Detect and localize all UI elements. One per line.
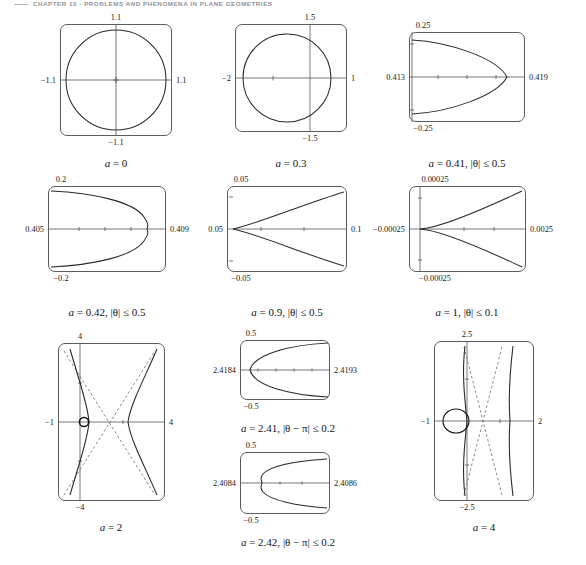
caption-var: a — [435, 306, 441, 318]
caption-var: a — [241, 422, 247, 434]
curve-wedge-lower — [233, 229, 344, 266]
axis-label-bottom: −4 — [76, 503, 85, 512]
panel-caption: a = 0.3 — [276, 157, 307, 169]
axis-label-bottom: −1.1 — [108, 138, 123, 147]
axis-label-right: 1.1 — [176, 76, 186, 85]
caption-var: a — [241, 536, 247, 548]
plot-canvas — [48, 186, 166, 272]
axis-label-left: 2.4084 — [213, 479, 236, 488]
axis-label-top: 0.2 — [56, 175, 66, 184]
axis-label-bottom: −0.00025 — [419, 274, 451, 283]
panel-caption: a = 2.42, |θ − π| ≤ 0.2 — [241, 536, 335, 548]
axis-label-top: 1.5 — [305, 13, 315, 22]
axis-label-right: 2.4086 — [334, 479, 357, 488]
axis-label-top: 1.1 — [111, 13, 121, 22]
caption-var: a — [429, 157, 435, 169]
panel-a09: 0.05 −0.05 0.05 0.1 a = 0.9, |θ| ≤ 0.5 — [227, 186, 347, 272]
axis-label-top: 0.00025 — [421, 175, 448, 184]
caption-eq: = 2.41, — [249, 422, 280, 434]
caption-cond: |θ| ≤ 0.5 — [471, 157, 506, 169]
axis-label-right: 0.1 — [351, 225, 361, 234]
caption-eq: = 0.9, — [260, 306, 285, 318]
axis-label-left: 0.405 — [25, 225, 44, 234]
axis-label-right: 0.0025 — [530, 225, 553, 234]
axis-label-right: 1 — [351, 74, 355, 83]
axis-label-top: 0.5 — [246, 329, 256, 338]
caption-var: a — [105, 157, 111, 169]
plot-area-a03: 1.5 −1.5 −2 1 — [235, 24, 347, 132]
plot-area-a041: 0.25 −0.25 0.413 0.419 — [409, 32, 525, 122]
plot-canvas — [434, 341, 534, 501]
asymptote-lines — [64, 351, 155, 495]
axis-label-right: 2.4193 — [334, 366, 357, 375]
axis-label-top: 0.05 — [234, 175, 249, 184]
panel-caption: a = 0.41, |θ| ≤ 0.5 — [429, 157, 506, 169]
axis-label-right: 4 — [169, 418, 173, 427]
curve-parabola-right-kink — [261, 459, 327, 508]
panel-a03: 1.5 −1.5 −2 1 a = 0.3 — [235, 24, 347, 132]
plot-canvas — [409, 32, 525, 122]
axis-label-top: 0.5 — [246, 441, 256, 450]
caption-eq: = 2.42, — [249, 536, 280, 548]
caption-eq: = 0 — [113, 157, 127, 169]
caption-var: a — [100, 521, 106, 533]
axis-label-left: 2.4184 — [213, 366, 236, 375]
caption-cond: |θ − π| ≤ 0.2 — [283, 422, 335, 434]
axis-label-bottom: −0.2 — [53, 274, 68, 283]
axis-label-bottom: −0.5 — [243, 402, 258, 411]
panel-a042: 0.2 −0.2 0.405 0.409 a = 0.42, |θ| ≤ 0.5 — [48, 186, 166, 272]
plot-area-a09: 0.05 −0.05 0.05 0.1 — [227, 186, 347, 272]
caption-var: a — [473, 521, 479, 533]
caption-var: a — [251, 306, 257, 318]
panel-caption: a = 0 — [105, 157, 128, 169]
plot-area-a042: 0.2 −0.2 0.405 0.409 — [48, 186, 166, 272]
plot-area-a1: 0.00025 −0.00025 −0.00025 0.0025 — [409, 186, 526, 272]
panel-caption: a = 4 — [473, 521, 496, 533]
axis-label-bottom: −1.5 — [302, 134, 317, 143]
panel-a4: 2.5 −2.5 −1 2 a = 4 — [434, 341, 534, 501]
caption-eq: = 0.42, — [77, 306, 108, 318]
panel-caption: a = 2 — [100, 521, 123, 533]
plot-area-a242: 0.5 −0.5 2.4084 2.4086 — [240, 452, 330, 514]
caption-cond: |θ − π| ≤ 0.2 — [283, 536, 335, 548]
caption-eq: = 0.3 — [284, 157, 307, 169]
panel-caption: a = 1, |θ| ≤ 0.1 — [435, 306, 498, 318]
axis-label-left: −1 — [45, 418, 54, 427]
caption-var: a — [69, 306, 75, 318]
panel-caption: a = 2.41, |θ − π| ≤ 0.2 — [241, 422, 335, 434]
axis-label-left: −1.1 — [41, 76, 56, 85]
axis-label-left: 0.413 — [386, 73, 405, 82]
axis-label-bottom: −0.5 — [243, 516, 258, 525]
panel-caption: a = 0.9, |θ| ≤ 0.5 — [251, 306, 322, 318]
axis-label-bottom: −0.25 — [413, 124, 432, 133]
caption-eq: = 1, — [444, 306, 461, 318]
running-head-rule — [14, 4, 28, 5]
axis-label-top: 4 — [78, 332, 82, 341]
caption-var: a — [276, 157, 282, 169]
running-head: CHAPTER 10 · PROBLEMS AND PHENOMENA IN P… — [14, 0, 273, 7]
axis-label-right: 0.409 — [170, 225, 189, 234]
axis-label-bottom: −2.5 — [459, 503, 474, 512]
plot-canvas — [235, 24, 347, 132]
caption-eq: = 4 — [481, 521, 495, 533]
plot-area-a2: 4 −4 −1 4 — [58, 343, 165, 501]
plot-canvas — [240, 452, 330, 514]
curve-cusp-upper — [420, 191, 522, 229]
curve-cusp-lower — [420, 229, 522, 267]
axis-label-left: −1 — [421, 417, 430, 426]
panel-a041: 0.25 −0.25 0.413 0.419 a = 0.41, |θ| ≤ 0… — [409, 32, 525, 122]
axis-label-right: 0.419 — [529, 73, 548, 82]
panel-a1: 0.00025 −0.00025 −0.00025 0.0025 a = 1, … — [409, 186, 526, 272]
curve-wedge-upper — [233, 192, 344, 229]
plot-canvas — [58, 343, 165, 501]
panel-a242: 0.5 −0.5 2.4084 2.4086 a = 2.42, |θ − π|… — [240, 452, 330, 514]
axis-label-left: 0.05 — [208, 225, 223, 234]
plot-canvas — [60, 24, 172, 136]
panel-caption: a = 0.42, |θ| ≤ 0.5 — [69, 306, 146, 318]
running-head-text: CHAPTER 10 · PROBLEMS AND PHENOMENA IN P… — [33, 0, 273, 7]
axis-label-left: −2 — [222, 74, 231, 83]
panel-a241: 0.5 −0.5 2.4184 2.4193 a = 2.41, |θ − π|… — [240, 340, 330, 400]
axis-label-top: 0.25 — [416, 21, 431, 30]
plot-canvas — [409, 186, 526, 272]
caption-cond: |θ| ≤ 0.5 — [111, 306, 146, 318]
